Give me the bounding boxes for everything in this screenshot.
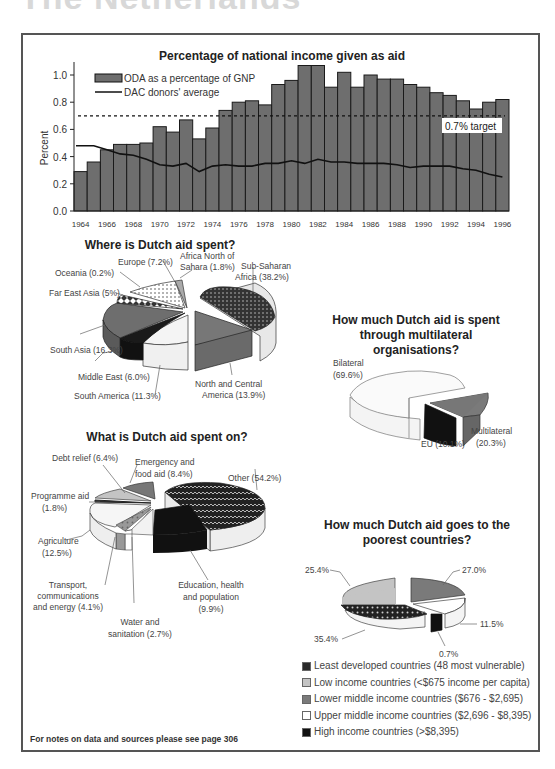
label-edu: Education, health [178, 580, 244, 590]
label-low: 25.4% [305, 565, 330, 575]
x-tick-label: 1976 [230, 220, 248, 229]
label-ans: Africa North of [180, 251, 235, 261]
label-agri-2: (12.5%) [42, 548, 72, 558]
x-tick-label: 1986 [362, 220, 380, 229]
x-tick-label: 1990 [414, 220, 432, 229]
poorest-title: How much Dutch aid goes to the poorest c… [324, 518, 510, 547]
legend-swatch-icon [302, 695, 311, 704]
label-ldc: 35.4% [314, 634, 339, 644]
region-pie-title: Where is Dutch aid spent? [85, 238, 236, 252]
legend-label: Low income countries (<$675 income per c… [314, 675, 530, 692]
label-prog: Programme aid [31, 491, 89, 501]
bar-1969 [140, 143, 153, 211]
label-debt: Debt relief (6.4%) [52, 453, 118, 463]
label-sam: South America (11.3%) [74, 391, 161, 401]
y-tick-label: 0.8 [53, 97, 67, 108]
bar-1979 [272, 85, 285, 212]
label-eur: Europe (7.2%) [118, 257, 173, 267]
label-other: Other (54.2%) [228, 473, 282, 483]
label-emer-2: food aid (8.4%) [135, 469, 193, 479]
x-tick-label: 1984 [335, 220, 353, 229]
bar-1993 [456, 101, 469, 211]
poorest-legend: Least developed countries (48 most vulne… [302, 658, 531, 741]
y-tick-label: 0.4 [53, 152, 67, 163]
legend-item: Lower middle income countries ($676 - $2… [302, 691, 531, 708]
bar-1989 [404, 85, 417, 212]
x-tick-label: 1966 [98, 220, 116, 229]
x-tick-label: 1992 [441, 220, 459, 229]
x-tick-label: 1988 [388, 220, 406, 229]
bar-1980 [285, 80, 298, 211]
bar-1974 [206, 128, 219, 211]
x-tick-label: 1964 [72, 220, 90, 229]
transport-side [116, 533, 125, 550]
sam-side [143, 342, 188, 370]
y-tick-label: 1.0 [53, 70, 67, 81]
y-tick-label: 0.0 [53, 206, 67, 217]
label-bilateral: Bilateral [333, 358, 364, 368]
bar-1976 [232, 102, 245, 211]
label-edu-3: (9.9%) [198, 604, 223, 614]
x-tick-label: 1972 [177, 220, 195, 229]
bar-1986 [364, 75, 377, 211]
sector-pie-title: What is Dutch aid spent on? [86, 430, 247, 444]
bar-1987 [377, 79, 390, 211]
label-me: Middle East (6.0%) [78, 372, 150, 382]
legend-label: Upper middle income countries ($2,696 - … [314, 708, 531, 725]
multilateral-title-2: through multilateral [360, 328, 473, 342]
multilateral-pie-chart: How much Dutch aid is spent through mult… [300, 300, 540, 460]
x-tick-label: 1994 [467, 220, 485, 229]
x-tick-label: 1968 [124, 220, 142, 229]
water-side [125, 534, 132, 550]
label-fea: Far East Asia (5%) [49, 288, 120, 298]
bar-1978 [259, 105, 272, 211]
bar-1990 [417, 87, 430, 211]
region-pie-chart: Where is Dutch aid spent? Sub-Saharan Af… [25, 235, 325, 415]
bar-1982 [311, 66, 324, 212]
bar-1977 [245, 101, 258, 211]
bar-1985 [351, 87, 364, 211]
hi-slice [431, 614, 442, 632]
legend-item: High income countries (>$8,395) [302, 724, 531, 741]
y-axis-label: Percent [39, 131, 50, 166]
legend-swatch-icon [302, 728, 311, 737]
bar-legend: ODA as a percentage of GNP DAC donors' a… [95, 73, 256, 98]
bar-1973 [193, 139, 206, 211]
label-edu-2: and population [183, 592, 239, 602]
legend-item: Low income countries (<$675 income per c… [302, 675, 531, 692]
y-tick-label: 0.6 [53, 124, 67, 135]
bar-1970 [153, 127, 166, 211]
poorest-pie-chart: How much Dutch aid goes to the poorest c… [295, 490, 535, 660]
label-eu: EU (10.1%) [421, 439, 465, 449]
label-sa: South Asia (16.3%) [50, 345, 123, 355]
label-ssa-2: Africa (38.2%) [235, 272, 289, 282]
x-tick-label: 1978 [256, 220, 274, 229]
label-ans-2: Sahara (1.8%) [180, 262, 235, 272]
poorest-title-2: poorest countries? [363, 533, 472, 547]
bar-1996 [496, 100, 509, 212]
bar-chart-title: Percentage of national income given as a… [159, 49, 405, 63]
label-trans: Transport, [49, 580, 87, 590]
legend-swatch-icon [302, 678, 311, 687]
legend-swatch-icon [302, 662, 311, 671]
label-trans-3: and energy (4.1%) [33, 602, 103, 612]
footnote: For notes on data and sources please see… [30, 734, 238, 744]
bar-1975 [219, 110, 232, 211]
legend-label: Lower middle income countries ($676 - $2… [314, 691, 523, 708]
y-axis: 0.00.20.40.60.81.0 [53, 62, 74, 217]
legend-swatch-icon [302, 711, 311, 720]
sector-pie-chart: What is Dutch aid spent on? Other (54.2%… [25, 425, 325, 665]
label-prog-2: (1.8%) [42, 503, 67, 513]
legend-item: Least developed countries (48 most vulne… [302, 658, 531, 675]
legend-label-dac: DAC donors' average [124, 87, 220, 98]
y-tick-label: 0.2 [53, 179, 67, 190]
label-oce: Oceania (0.2%) [55, 268, 114, 278]
legend-swatch-oda [95, 74, 122, 82]
x-tick-label: 1982 [309, 220, 327, 229]
lmi-slice [411, 578, 465, 602]
bar-1984 [338, 72, 351, 211]
bar-1988 [390, 79, 403, 211]
label-water-2: sanitation (2.7%) [108, 629, 172, 639]
legend-item: Upper middle income countries ($2,696 - … [302, 708, 531, 725]
multilateral-title: How much Dutch aid is spent through mult… [332, 313, 499, 357]
